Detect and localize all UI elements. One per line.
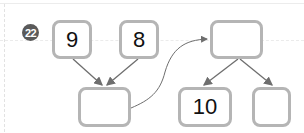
sum-answer-box[interactable] bbox=[78, 87, 131, 127]
total-answer-box[interactable] bbox=[210, 20, 263, 59]
arrow-9-to-sum bbox=[73, 59, 102, 85]
input-box-1: 9 bbox=[52, 20, 92, 59]
part-box-1: 10 bbox=[178, 87, 232, 127]
arrow-total-to-part2 bbox=[240, 59, 272, 85]
part-answer-box-2[interactable] bbox=[252, 87, 291, 127]
input-box-2: 8 bbox=[119, 20, 159, 59]
arrow-8-to-sum bbox=[107, 59, 138, 85]
arrow-total-to-part1 bbox=[204, 59, 238, 85]
